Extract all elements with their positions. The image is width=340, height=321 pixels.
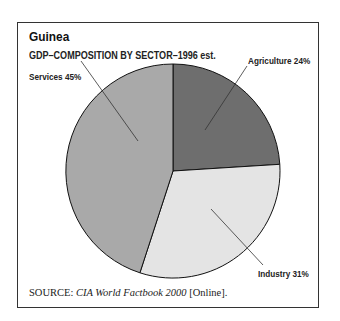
source-title: CIA World Factbook 2000 (76, 287, 187, 298)
label-industry: Industry 31% (258, 268, 309, 279)
label-agriculture: Agriculture 24% (248, 55, 310, 66)
source-note: SOURCE: CIA World Factbook 2000 [Online]… (29, 287, 227, 298)
source-prefix: SOURCE: (29, 287, 73, 298)
slice-agriculture (173, 64, 280, 171)
source-suffix: [Online]. (189, 287, 227, 298)
chart-frame: Guinea GDP–COMPOSITION BY SECTOR–1996 es… (17, 22, 319, 308)
label-services: Services 45% (29, 71, 81, 82)
